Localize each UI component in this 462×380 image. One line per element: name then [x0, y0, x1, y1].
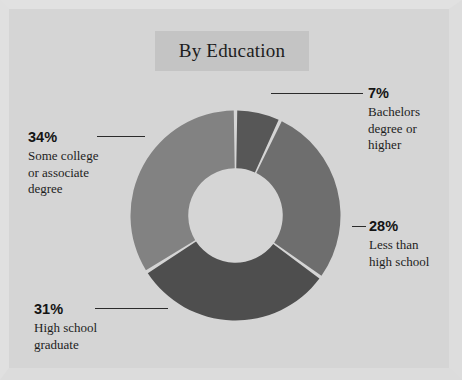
donut-chart-svg: [130, 110, 341, 321]
callout-highschool-label: High school graduate: [34, 320, 97, 353]
callout-bachelors-pct: 7%: [368, 86, 420, 101]
callout-somecollege: 34% Some college or associate degree: [28, 130, 98, 198]
donut-chart: [130, 110, 341, 321]
callout-lessthan-pct: 28%: [369, 219, 429, 234]
callout-somecollege-pct: 34%: [28, 130, 98, 145]
chart-title-band: By Education: [155, 31, 309, 71]
donut-slice-group: [131, 111, 341, 321]
callout-bachelors: 7% Bachelors degree or higher: [368, 86, 420, 154]
donut-slice: [131, 111, 235, 271]
callout-bachelors-label: Bachelors degree or higher: [368, 104, 420, 154]
leader-line-lessthan: [352, 226, 366, 227]
callout-lessthan: 28% Less than high school: [369, 219, 429, 270]
callout-lessthan-label: Less than high school: [369, 237, 429, 270]
chart-page: By Education 7% Bachelors degree or high…: [0, 0, 462, 380]
leader-line-somecollege: [97, 136, 145, 137]
leader-line-highschool: [95, 308, 168, 309]
callout-highschool-pct: 31%: [34, 302, 97, 317]
leader-line-bachelors: [271, 93, 363, 94]
callout-somecollege-label: Some college or associate degree: [28, 148, 98, 198]
callout-highschool: 31% High school graduate: [34, 302, 97, 353]
page-title: By Education: [155, 31, 309, 71]
